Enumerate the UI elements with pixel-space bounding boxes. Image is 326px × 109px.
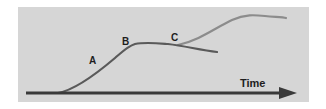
time-axis-label: Time — [240, 78, 265, 89]
declining-curve — [58, 43, 217, 93]
time-axis-arrowhead-icon — [279, 87, 297, 99]
point-label-b: B — [122, 37, 129, 47]
point-label-a: A — [89, 56, 96, 66]
point-label-c: C — [171, 33, 178, 43]
curves-graphic — [0, 0, 326, 109]
renewed-growth-curve — [178, 15, 286, 45]
